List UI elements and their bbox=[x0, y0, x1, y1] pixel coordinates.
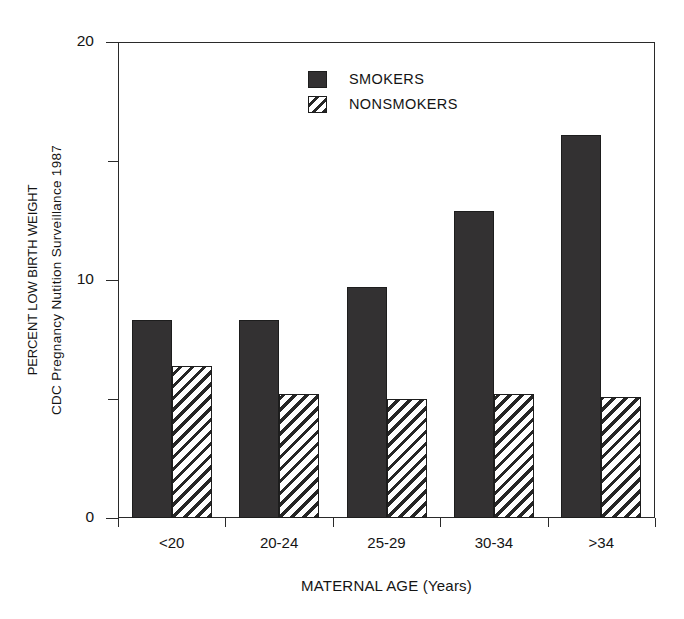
x-tick-label-25-29: 25-29 bbox=[332, 534, 442, 551]
x-tick-label-<20: <20 bbox=[117, 534, 227, 551]
y-tick-mark-20 bbox=[106, 42, 118, 43]
y-tick-label-0: 0 bbox=[34, 508, 94, 526]
x-tick-mark-0 bbox=[118, 518, 119, 527]
x-tick-mark-4 bbox=[548, 518, 549, 527]
x-tick-mark-2 bbox=[333, 518, 334, 527]
y-tick-mark-10 bbox=[106, 280, 118, 281]
y-tick-mark-5 bbox=[108, 399, 118, 400]
x-tick-mark-3 bbox=[440, 518, 441, 527]
y-tick-label-20: 20 bbox=[34, 32, 94, 50]
legend-label-smokers: SMOKERS bbox=[349, 71, 424, 87]
x-tick-mark-5 bbox=[655, 518, 656, 527]
legend-label-nonsmokers: NONSMOKERS bbox=[349, 96, 458, 112]
x-tick-label-20-24: 20-24 bbox=[224, 534, 334, 551]
x-axis-title: MATERNAL AGE (Years) bbox=[118, 577, 655, 594]
x-tick-label-30-34: 30-34 bbox=[439, 534, 549, 551]
legend-item-smokers: SMOKERS bbox=[308, 68, 528, 90]
bar-chart-figure: PERCENT LOW BIRTH WEIGHT CDC Pregnancy N… bbox=[0, 0, 684, 619]
legend-swatch-smokers-icon bbox=[308, 71, 327, 88]
y-tick-mark-15 bbox=[108, 161, 118, 162]
x-tick-mark-1 bbox=[225, 518, 226, 527]
y-tick-label-10: 10 bbox=[34, 270, 94, 288]
x-tick-label->34: >34 bbox=[546, 534, 656, 551]
legend-swatch-nonsmokers-icon bbox=[308, 96, 327, 113]
legend-item-nonsmokers: NONSMOKERS bbox=[308, 93, 528, 115]
legend: SMOKERS NONSMOKERS bbox=[308, 68, 528, 118]
y-tick-mark-0 bbox=[106, 518, 118, 519]
